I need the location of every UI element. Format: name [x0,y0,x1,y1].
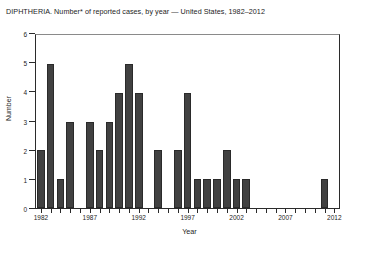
y-axis-tick [29,150,35,151]
x-axis-slot [114,209,124,213]
bar-slot [75,35,85,208]
x-axis-tick [325,209,326,213]
x-axis-tick [119,209,120,213]
x-axis-tick [158,209,159,213]
bar-series [36,35,339,208]
y-axis-tick-label: 5 [23,60,27,67]
x-axis-slot [290,209,300,213]
bar-slot [290,35,300,208]
y-axis-tick-label: 6 [23,31,27,38]
x-axis-slot: 2012 [329,209,339,213]
bar-slot [232,35,242,208]
bar-slot [222,35,232,208]
bar-slot [329,35,339,208]
bar-slot [56,35,66,208]
bar [321,179,329,208]
x-axis-tick [334,209,335,213]
bar-slot [281,35,291,208]
bar-slot [261,35,271,208]
x-axis-tick [51,209,52,213]
x-axis-slot: 1997 [183,209,193,213]
x-axis-slot [144,209,154,213]
bar-slot [144,35,154,208]
bar [47,64,55,208]
x-axis-slot: 1987 [85,209,95,213]
x-axis-tick [227,209,228,213]
y-axis-tick [29,208,35,209]
x-axis-tick [197,209,198,213]
x-axis-tick [217,209,218,213]
figure: DIPHTHERIA. Number* of reported cases, b… [0,0,379,253]
y-axis-tick-label: 0 [23,206,27,213]
x-axis-tick [70,209,71,213]
bar [135,93,143,208]
x-axis-slot [75,209,85,213]
x-axis-tick [139,209,140,213]
bar-slot [134,35,144,208]
bar-slot [153,35,163,208]
x-axis-tick [168,209,169,213]
x-axis-tick [237,209,238,213]
bar-slot [212,35,222,208]
y-axis-tick [29,62,35,63]
x-axis-tick [256,209,257,213]
y-axis-tick-label: 1 [23,176,27,183]
bar [96,150,104,208]
bar [37,150,45,208]
x-axis-title: Year [0,227,379,236]
x-axis-tick [148,209,149,213]
x-axis-slot [104,209,114,213]
x-axis-tick [207,209,208,213]
figure-title: DIPHTHERIA. Number* of reported cases, b… [6,7,265,16]
x-axis-tick [276,209,277,213]
bar [154,150,162,208]
x-axis-tick-label: 2002 [229,214,243,221]
x-axis-slot [173,209,183,213]
x-axis-tick-label: 1982 [34,214,48,221]
bar-slot [183,35,193,208]
bar-slot [173,35,183,208]
x-axis-tick [295,209,296,213]
bar-slot [46,35,56,208]
x-axis-slot [163,209,173,213]
bar-slot [300,35,310,208]
bar [203,179,211,208]
bar-slot [163,35,173,208]
x-axis: 1982198719921997200220072012 [36,209,339,213]
x-axis-tick [60,209,61,213]
bar-slot [95,35,105,208]
x-axis-slot [153,209,163,213]
x-axis-slot [202,209,212,213]
x-axis-slot [95,209,105,213]
x-axis-tick [90,209,91,213]
bar-slot [271,35,281,208]
x-axis-tick [188,209,189,213]
bar-slot [85,35,95,208]
y-axis-tick [29,179,35,180]
bar [86,122,94,209]
bar [233,179,241,208]
x-axis-slot: 2002 [232,209,242,213]
bar [242,179,250,208]
x-axis-slot [65,209,75,213]
x-axis-slot [251,209,261,213]
x-axis-slot [261,209,271,213]
x-axis-slot [222,209,232,213]
bar-slot [65,35,75,208]
x-axis-tick [266,209,267,213]
x-axis-tick [315,209,316,213]
bar [194,179,202,208]
x-axis-tick [129,209,130,213]
y-axis-tick-label: 3 [23,118,27,125]
x-axis-slot: 1992 [134,209,144,213]
bar-slot [310,35,320,208]
y-axis-tick-label: 4 [23,89,27,96]
bar-slot [251,35,261,208]
x-axis-slot [300,209,310,213]
x-axis-tick-label: 1987 [83,214,97,221]
x-axis-slot [56,209,66,213]
bar [213,179,221,208]
x-axis-slot [46,209,56,213]
bar [115,93,123,208]
y-axis-tick [29,33,35,34]
